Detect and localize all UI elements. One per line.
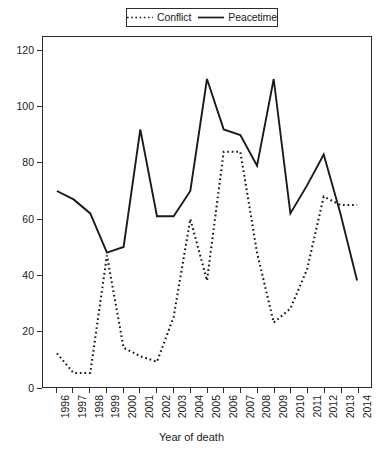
x-axis-tick-mark	[123, 388, 124, 393]
legend-label-peacetime: Peacetime	[228, 12, 277, 23]
x-axis-tick-label: 2001	[144, 395, 155, 418]
y-axis-tick-label: 80	[22, 157, 37, 168]
y-axis-tick-label: 20	[22, 326, 37, 337]
x-axis-tick-mark	[274, 388, 275, 393]
x-axis-tick-mark	[106, 388, 107, 393]
x-axis-tick-mark	[290, 388, 291, 393]
x-axis-tick-label: 1996	[60, 395, 71, 418]
chart-legend: Conflict Peacetime	[126, 8, 278, 27]
x-axis-tick-mark	[240, 388, 241, 393]
x-axis-tick-mark	[56, 388, 57, 393]
x-axis-tick-mark	[207, 388, 208, 393]
y-axis-tick-label: 100	[16, 101, 37, 112]
x-axis-tick-mark	[156, 388, 157, 393]
y-axis-tick-label: 0	[28, 383, 37, 394]
plot-area	[42, 36, 372, 388]
y-axis-tick-label: 120	[16, 45, 37, 56]
x-axis-tick-label: 2007	[245, 395, 256, 418]
legend-swatch-peacetime-solid-line	[198, 14, 224, 21]
x-axis-tick-label: 2013	[345, 395, 356, 418]
x-axis-title: Year of death	[0, 432, 383, 443]
x-axis-tick-mark	[341, 388, 342, 393]
x-axis-tick-mark	[190, 388, 191, 393]
legend-swatch-conflict-dotted-line	[127, 14, 153, 21]
x-axis-tick-mark	[223, 388, 224, 393]
x-axis-tick-label: 1997	[77, 395, 88, 418]
x-axis-tick-mark	[139, 388, 140, 393]
x-axis-tick-label: 2012	[328, 395, 339, 418]
x-axis-tick-mark	[358, 388, 359, 393]
x-axis-tick-label: 2010	[295, 395, 306, 418]
plot-svg	[43, 37, 371, 387]
legend-entry-peacetime: Peacetime	[198, 12, 277, 23]
x-axis-tick-label: 2005	[211, 395, 222, 418]
y-axis-tick-label: 40	[22, 270, 37, 281]
x-axis-tick-label: 1999	[110, 395, 121, 418]
x-axis-tick-label: 2008	[261, 395, 272, 418]
x-axis-tick-mark	[173, 388, 174, 393]
x-axis-tick-label: 1998	[94, 395, 105, 418]
x-axis-tick-label: 2000	[127, 395, 138, 418]
x-axis-tick-label: 2004	[194, 395, 205, 418]
x-axis-tick-label: 2014	[362, 395, 373, 418]
y-axis: 020406080100120	[0, 36, 42, 389]
x-axis-tick-mark	[89, 388, 90, 393]
x-axis-tick-label: 2003	[177, 395, 188, 418]
legend-label-conflict: Conflict	[157, 12, 191, 23]
x-axis-tick-label: 2002	[161, 395, 172, 418]
series-line-conflict	[57, 152, 357, 373]
x-axis-tick-label: 2011	[312, 395, 323, 418]
legend-entry-conflict: Conflict	[127, 12, 191, 23]
x-axis-tick-mark	[324, 388, 325, 393]
y-axis-tick-label: 60	[22, 214, 37, 225]
x-axis-tick-mark	[307, 388, 308, 393]
x-axis-tick-mark	[257, 388, 258, 393]
x-axis-tick-label: 2009	[278, 395, 289, 418]
x-axis-tick-label: 2006	[228, 395, 239, 418]
x-axis-tick-mark	[72, 388, 73, 393]
figure-container: Conflict Peacetime 020406080100120 19961…	[0, 0, 383, 461]
